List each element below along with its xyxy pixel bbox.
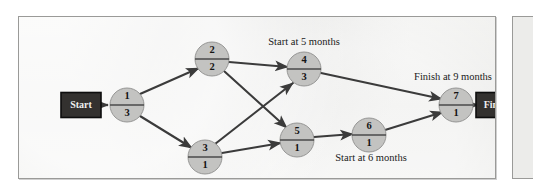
annotation-finish-at-9-months: Finish at 9 months [414,71,492,82]
node-n7-bottom-value: 1 [453,107,458,118]
node-n3-top-value: 3 [202,142,207,153]
edge-n2-to-n4 [229,62,288,67]
start-terminal-label: Start [70,99,92,110]
node-n6-top-value: 6 [366,120,371,131]
node-n5-bottom-value: 1 [294,142,299,153]
node-n5-top-value: 5 [294,125,299,136]
start-terminal: Start [61,93,101,118]
annotation-start-at-5-months: Start at 5 months [268,36,339,47]
edge-n5-to-n6 [314,134,353,137]
node-n5: 5 1 [280,123,314,157]
node-n3-bottom-value: 1 [202,159,207,170]
node-n6-bottom-value: 1 [366,137,371,148]
node-n4: 4 3 [287,52,321,86]
finish-terminal-label: Finish [484,99,496,110]
finish-terminal: Finish [476,93,496,118]
adjacent-panel-edge [512,16,533,179]
edge-n1-to-n3 [140,116,192,148]
node-n4-top-value: 4 [301,54,307,65]
network-diagram: Start Finish 1 3 2 2 3 [19,17,496,179]
annotation-start-at-3-months: Start at 3 months [171,176,242,179]
node-n2-bottom-value: 2 [209,61,214,72]
node-n1: 1 3 [110,88,144,122]
edge-n2-to-n5 [224,71,287,128]
screenshot-root: Start Finish 1 3 2 2 3 [0,0,533,195]
node-n7: 7 1 [439,88,473,122]
node-n1-top-value: 1 [124,90,129,101]
node-n3: 3 1 [188,140,222,174]
node-n1-bottom-value: 3 [124,107,129,118]
node-n6: 6 1 [352,118,386,152]
node-n2-top-value: 2 [209,44,214,55]
node-n7-top-value: 7 [453,90,458,101]
annotation-start-at-6-months: Start at 6 months [335,152,406,163]
edge-n6-to-n7 [385,112,443,130]
node-n2: 2 2 [195,42,229,76]
edge-n1-to-n2 [140,68,199,94]
node-n4-bottom-value: 3 [301,71,306,82]
diagram-panel: Start Finish 1 3 2 2 3 [18,16,496,179]
edge-n3-to-n5 [222,143,281,153]
